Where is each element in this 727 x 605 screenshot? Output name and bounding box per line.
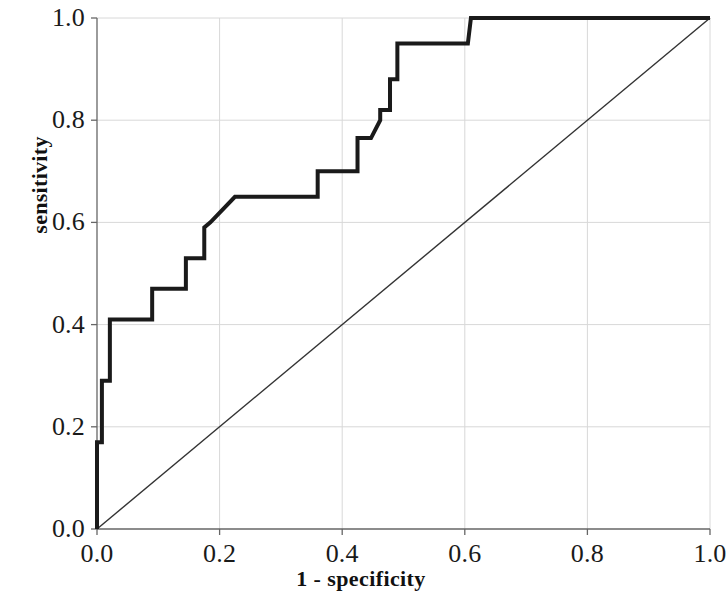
y-tick-label: 0.8 [52, 107, 85, 133]
y-tick-label: 0.4 [52, 312, 85, 338]
x-tick-label: 0.6 [448, 541, 481, 567]
x-tick-label: 0.0 [80, 541, 113, 567]
reference-diagonal-line [97, 18, 710, 529]
x-axis-ticks [97, 529, 710, 535]
y-axis-title: sensitivity [27, 85, 53, 285]
x-tick-label: 0.8 [571, 541, 604, 567]
x-tick-label: 0.2 [203, 541, 236, 567]
x-tick-label: 1.0 [693, 541, 726, 567]
x-tick-label: 0.4 [326, 541, 359, 567]
y-tick-label: 1.0 [52, 5, 85, 31]
y-tick-label: 0.6 [52, 209, 85, 235]
y-tick-label: 0.2 [52, 414, 85, 440]
x-axis-title: 1 - specificity [0, 566, 722, 592]
